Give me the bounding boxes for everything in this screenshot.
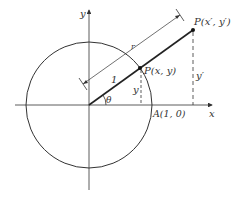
- point-p-prime-label: P(x′, y′): [193, 16, 231, 27]
- diagram-canvas: y x P(x′, y′) P(x, y) A(1, 0) θ 1 r y y′: [0, 0, 243, 200]
- x-axis-label: x: [209, 108, 215, 119]
- unit-circle-diagram: y x P(x′, y′) P(x, y) A(1, 0) θ 1 r y y′: [0, 0, 243, 200]
- point-p-label: P(x, y): [143, 65, 176, 76]
- r-tick-start: [79, 78, 87, 90]
- y-length-label: y: [132, 84, 139, 95]
- r-tick-end: [176, 9, 184, 21]
- point-p-dot: [138, 66, 142, 70]
- y-prime-length-label: y′: [195, 70, 205, 81]
- point-p-prime-dot: [191, 28, 195, 32]
- unit-length-label: 1: [111, 74, 117, 85]
- point-a-label: A(1, 0): [152, 108, 186, 119]
- theta-label: θ: [106, 95, 112, 105]
- y-axis-label: y: [79, 8, 86, 19]
